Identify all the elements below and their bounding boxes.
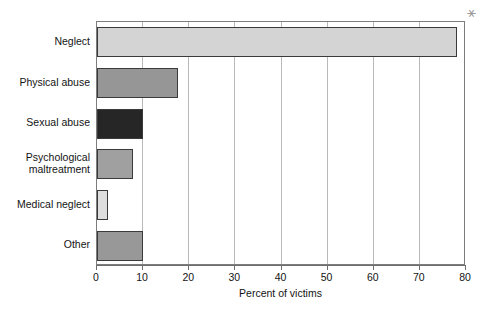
category-label: Medical neglect	[0, 198, 90, 211]
x-tick-0	[96, 265, 97, 270]
bar	[97, 68, 178, 98]
plot-area	[96, 21, 465, 265]
x-tick-label-30: 30	[214, 271, 254, 283]
x-tick-70	[419, 265, 420, 270]
category-label: Physical abuse	[0, 76, 90, 89]
category-axis-labels: NeglectPhysical abuseSexual abusePsychol…	[0, 21, 90, 265]
x-tick-60	[373, 265, 374, 270]
x-tick-label-20: 20	[168, 271, 208, 283]
category-label: Sexual abuse	[0, 116, 90, 129]
bar	[97, 27, 457, 57]
gridline-40	[281, 22, 282, 264]
gridline-60	[373, 22, 374, 264]
gridline-10	[142, 22, 143, 264]
gridline-20	[188, 22, 189, 264]
x-tick-label-70: 70	[399, 271, 439, 283]
x-tick-label-0: 0	[76, 271, 116, 283]
x-tick-label-40: 40	[261, 271, 301, 283]
category-label: Other	[0, 238, 90, 251]
x-tick-80	[465, 265, 466, 270]
x-tick-label-80: 80	[445, 271, 484, 283]
scan-artifact-icon: ⚹	[464, 4, 478, 20]
x-tick-label-60: 60	[353, 271, 393, 283]
gridline-50	[327, 22, 328, 264]
bar	[97, 109, 143, 139]
bar	[97, 149, 133, 179]
bar-chart: ⚹ NeglectPhysical abuseSexual abusePsych…	[0, 0, 484, 309]
x-tick-30	[234, 265, 235, 270]
gridline-30	[234, 22, 235, 264]
gridline-70	[419, 22, 420, 264]
x-tick-40	[281, 265, 282, 270]
bar	[97, 190, 108, 220]
x-tick-label-50: 50	[307, 271, 347, 283]
category-label: Neglect	[0, 35, 90, 48]
x-tick-10	[142, 265, 143, 270]
x-tick-20	[188, 265, 189, 270]
x-tick-50	[327, 265, 328, 270]
x-axis-title: Percent of victims	[96, 287, 465, 299]
category-label: Psychological maltreatment	[0, 151, 90, 176]
x-tick-label-10: 10	[122, 271, 162, 283]
bar	[97, 231, 143, 261]
